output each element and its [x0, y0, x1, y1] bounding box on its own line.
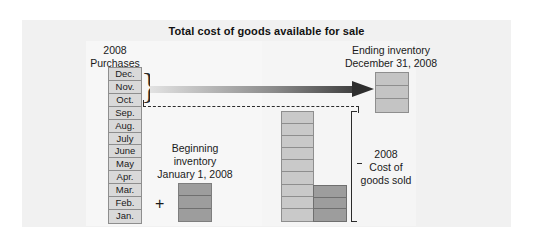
cogs-line3: goods sold [340, 174, 432, 187]
purchases-month-cell: Feb. [109, 197, 141, 210]
ending-inventory-layer [376, 99, 408, 112]
beginning-inventory-line3: January 1, 2008 [134, 168, 256, 181]
ending-inventory-label: Ending inventory December 31, 2008 [320, 44, 462, 70]
purchases-year: 2008 [73, 44, 157, 57]
purchases-month-cell: Dec. [109, 68, 141, 81]
figure-title: Total cost of goods available for sale [0, 25, 533, 37]
purchases-month-cell: Mar. [109, 184, 141, 197]
purchases-month-cell: Nov. [109, 81, 141, 94]
ending-inventory-box [375, 72, 409, 113]
cogs-dark-layer [314, 209, 346, 221]
cogs-light-stack [281, 111, 314, 222]
ending-inventory-line2: December 31, 2008 [320, 57, 462, 70]
arrow-head-icon [352, 81, 374, 97]
cogs-dark-stack [313, 185, 347, 222]
beginning-inventory-line2: inventory [134, 155, 256, 168]
beginning-inventory-box [178, 183, 212, 222]
cost-of-goods-sold-label: 2008 Cost of goods sold [340, 148, 432, 187]
cogs-light-layer [282, 172, 313, 184]
purchases-month-cell: Sep. [109, 107, 141, 120]
beginning-inventory-layer [179, 184, 211, 196]
cogs-light-layer [282, 124, 313, 136]
cogs-dark-layer [314, 186, 346, 198]
ending-inventory-line1: Ending inventory [320, 44, 462, 57]
cogs-light-layer [282, 112, 313, 124]
plus-sign-icon: + [155, 196, 164, 212]
purchases-month-cell: Jan. [109, 210, 141, 223]
cogs-light-layer [282, 209, 313, 221]
beginning-inventory-line1: Beginning [134, 142, 256, 155]
ending-inventory-layer [376, 73, 408, 86]
beginning-inventory-layer [179, 209, 211, 221]
beginning-inventory-layer [179, 196, 211, 208]
purchases-to-ending-inventory-arrow [150, 86, 358, 93]
cogs-light-layer [282, 197, 313, 209]
dashed-divider-line [143, 106, 359, 107]
beginning-inventory-label: Beginning inventory January 1, 2008 [134, 142, 256, 181]
cogs-line2: Cost of [340, 161, 432, 174]
purchases-month-cell: Aug. [109, 120, 141, 133]
cogs-light-layer [282, 148, 313, 160]
cogs-light-layer [282, 136, 313, 148]
purchases-month-cell: Oct. [109, 94, 141, 107]
cogs-dark-layer [314, 198, 346, 210]
inventory-flow-figure: Total cost of goods available for sale 2… [0, 0, 533, 245]
ending-inventory-layer [376, 86, 408, 99]
cogs-line1: 2008 [340, 148, 432, 161]
cogs-light-layer [282, 160, 313, 172]
cogs-light-layer [282, 185, 313, 197]
dashed-line-right-tick [358, 106, 359, 113]
